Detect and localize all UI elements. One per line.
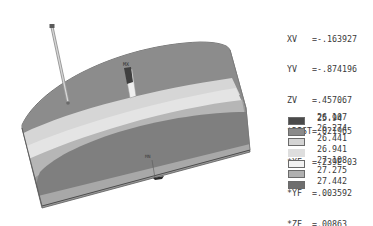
info-xv: XV =-.163927	[287, 34, 373, 44]
model-viewport[interactable]: MX MN	[0, 0, 290, 226]
legend-label: 27.442	[317, 176, 347, 186]
legend-label: 26.941	[317, 144, 347, 154]
contour-plot-3d: MX MN	[0, 0, 290, 226]
info-zv: ZV =.457067	[287, 95, 373, 105]
legend-swatch	[288, 128, 305, 136]
legend-swatch	[288, 181, 305, 189]
min-label: MN	[145, 154, 151, 159]
info-yv: YV =-.874196	[287, 64, 373, 74]
legend-item: 27.442	[286, 180, 372, 191]
legend-swatch	[288, 117, 305, 125]
legend-label: 27.275	[317, 165, 347, 175]
info-zf: *ZF =.00863	[287, 219, 373, 226]
legend-swatch	[288, 149, 305, 157]
legend-label: 26.441	[317, 133, 347, 143]
contour-legend: 26.107 26.274 26.441 26.941 27.108 27.27…	[286, 116, 372, 191]
legend-swatch	[288, 138, 305, 146]
legend-label: 27.108	[317, 155, 347, 165]
legend-swatch	[288, 170, 305, 178]
legend-swatch	[288, 160, 305, 168]
max-label: MX	[123, 61, 129, 67]
legend-label: 26.274	[317, 123, 347, 133]
legend-label: 26.107	[317, 112, 347, 122]
